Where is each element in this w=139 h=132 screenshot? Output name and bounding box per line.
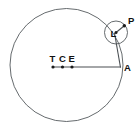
point-planet-dot <box>123 24 126 27</box>
point-center-dot <box>61 65 64 68</box>
point-equant-dot <box>70 65 73 68</box>
label-terra: T <box>50 53 56 64</box>
epicycle-diagram: T C E A L P <box>0 0 139 132</box>
deferent-circle <box>10 9 123 122</box>
label-equant: E <box>69 53 75 64</box>
label-center: C <box>59 53 66 64</box>
label-apogee: A <box>124 62 131 73</box>
point-terra-dot <box>51 65 54 68</box>
label-epicycle-center: L <box>111 28 117 39</box>
label-planet: P <box>128 15 135 26</box>
diagram-canvas: T C E A L P <box>0 0 139 132</box>
epicycle-radius-line <box>116 26 124 33</box>
